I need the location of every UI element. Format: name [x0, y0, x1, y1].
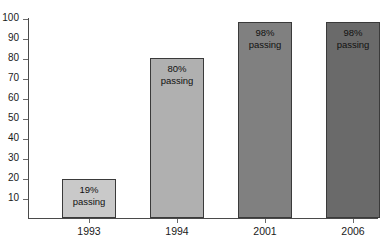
x-tick-1993 — [89, 219, 90, 223]
x-tick-1994 — [177, 219, 178, 223]
y-tick-40: 40 — [23, 139, 28, 140]
bar-2001[interactable]: 98% passing — [238, 22, 292, 218]
y-tick-30: 30 — [23, 159, 28, 160]
bar-caption-1993: passing — [63, 196, 115, 208]
y-tick-90: 90 — [23, 39, 28, 40]
y-tick-20: 20 — [23, 179, 28, 180]
bar-2006[interactable]: 98% passing — [326, 22, 380, 218]
bar-1993[interactable]: 19% passing — [62, 179, 116, 218]
bar-value-label-1994: 80% — [151, 63, 203, 75]
x-axis-line — [28, 218, 378, 219]
cut-off-title-strip — [0, 0, 384, 7]
x-tick-2006 — [353, 219, 354, 223]
y-tick-50: 50 — [23, 119, 28, 120]
y-tick-10: 10 — [23, 199, 28, 200]
x-axis-label-2006: 2006 — [323, 225, 383, 238]
x-tick-2001 — [265, 219, 266, 223]
x-axis-label-1994: 1994 — [147, 225, 207, 238]
bar-caption-2006: passing — [327, 39, 379, 51]
bar-1994[interactable]: 80% passing — [150, 58, 204, 218]
bar-chart-figure: 10 20 30 40 50 60 70 80 90 100 19% — [0, 0, 384, 244]
y-axis-line — [28, 18, 29, 219]
y-tick-70: 70 — [23, 79, 28, 80]
x-axis-label-1993: 1993 — [59, 225, 119, 238]
bar-value-label-1993: 19% — [63, 184, 115, 196]
bar-caption-2001: passing — [239, 39, 291, 51]
y-tick-80: 80 — [23, 59, 28, 60]
bar-value-label-2001: 98% — [239, 27, 291, 39]
y-tick-60: 60 — [23, 99, 28, 100]
plot-area: 10 20 30 40 50 60 70 80 90 100 19% — [28, 18, 378, 219]
bar-value-label-2006: 98% — [327, 27, 379, 39]
bar-caption-1994: passing — [151, 75, 203, 87]
y-tick-100: 100 — [23, 19, 28, 20]
x-axis-label-2001: 2001 — [235, 225, 295, 238]
